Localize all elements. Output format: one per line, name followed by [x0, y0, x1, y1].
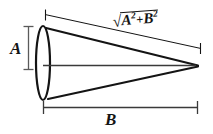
cone-diagram-figure: A B √A2+B2 [0, 0, 213, 134]
radicand-group: A2+B2 [120, 9, 160, 28]
height-dimension-line [24, 26, 34, 70]
length-dimension-line [43, 101, 198, 114]
cone-bottom-edge [48, 67, 198, 100]
height-label-a: A [10, 40, 21, 57]
length-label-b: B [105, 111, 116, 128]
cone-top-edge [46, 28, 198, 66]
sqrt-expression: √A2+B2 [112, 9, 160, 30]
cone-base-ellipse [36, 26, 50, 100]
radicand-term-2-exponent: 2 [153, 8, 158, 18]
cone-shape [36, 26, 198, 100]
slant-label-sqrt-a2-plus-b2: √A2+B2 [112, 9, 160, 30]
